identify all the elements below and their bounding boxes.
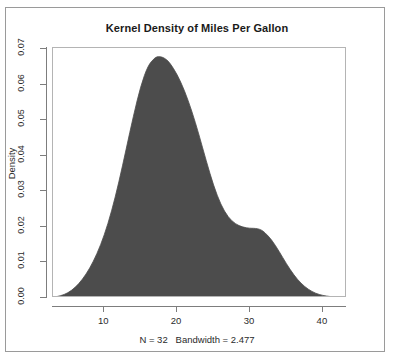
x-axis-tick-label: 40 [308, 315, 336, 326]
y-axis-tick [40, 226, 46, 227]
y-axis-tick-label: 0.04 [16, 139, 26, 169]
y-axis-tick [40, 84, 46, 85]
y-axis-label: Density [6, 139, 17, 189]
y-axis-tick [40, 297, 46, 298]
density-curve [53, 48, 345, 296]
x-axis-tick [103, 306, 104, 312]
y-axis-tick-label: 0.02 [16, 210, 26, 240]
x-axis-tick [176, 306, 177, 312]
y-axis-tick [40, 261, 46, 262]
y-axis-tick-label: 0.06 [16, 68, 26, 98]
y-axis-tick [40, 48, 46, 49]
y-axis-tick-label: 0.01 [16, 245, 26, 275]
y-axis-tick-label: 0.00 [16, 281, 26, 311]
chart-subtitle: N = 32 Bandwidth = 2.477 [0, 334, 394, 345]
y-axis-tick-label: 0.03 [16, 174, 26, 204]
x-axis-line [52, 306, 346, 307]
x-axis-tick-label: 20 [162, 315, 190, 326]
density-area-path [53, 57, 345, 296]
y-axis-tick [40, 155, 46, 156]
x-axis-tick [322, 306, 323, 312]
y-axis-tick [40, 119, 46, 120]
y-axis-tick-label: 0.07 [16, 32, 26, 62]
page-title: Kernel Density of Miles Per Gallon [0, 22, 394, 34]
screenshot-root: Kernel Density of Miles Per Gallon 0.000… [0, 0, 394, 363]
y-axis-tick [40, 190, 46, 191]
x-axis-tick-label: 30 [235, 315, 263, 326]
x-axis-tick-label: 10 [89, 315, 117, 326]
x-axis-tick [249, 306, 250, 312]
y-axis-line [46, 47, 47, 298]
y-axis-tick-label: 0.05 [16, 103, 26, 133]
plot-area [52, 47, 346, 297]
